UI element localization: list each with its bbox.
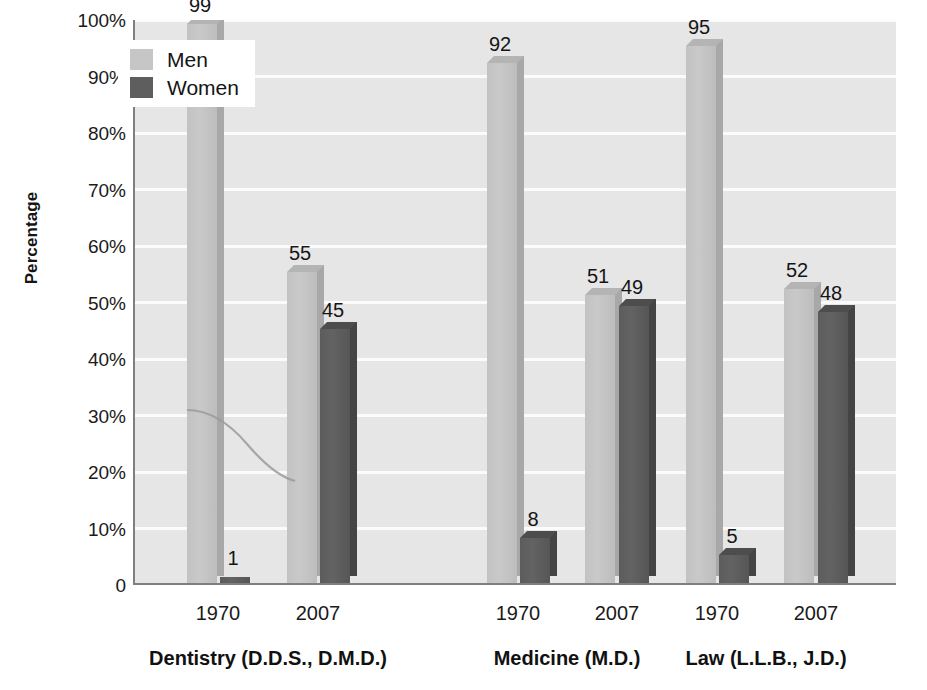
x-axis-year-label: 1970 bbox=[473, 603, 563, 623]
x-axis-labels: 197020071970200719702007Dentistry (D.D.S… bbox=[0, 0, 927, 690]
x-axis-year-label: 2007 bbox=[771, 603, 861, 623]
x-axis-year-label: 1970 bbox=[173, 603, 263, 623]
x-axis-year-label: 2007 bbox=[572, 603, 662, 623]
x-axis-year-label: 2007 bbox=[273, 603, 363, 623]
x-axis-group-label: Dentistry (D.D.S., D.M.D.) bbox=[108, 648, 428, 668]
bar-chart: Percentage 100%90%80%70%60%50%40%30%20%1… bbox=[0, 0, 927, 690]
x-axis-year-label: 1970 bbox=[672, 603, 762, 623]
x-axis-group-label: Law (L.L.B., J.D.) bbox=[606, 648, 926, 668]
